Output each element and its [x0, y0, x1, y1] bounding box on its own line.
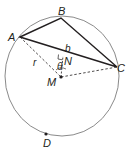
label-b: b: [65, 43, 71, 54]
point-D: [44, 132, 47, 135]
label-theta: θ: [57, 61, 63, 72]
label-B: B: [58, 5, 65, 17]
circle-triangle-diagram: A B C N M D b r θ: [0, 0, 126, 148]
point-M: [59, 75, 62, 78]
right-angle-mark: [58, 55, 63, 60]
label-r: r: [33, 57, 37, 68]
label-C: C: [117, 62, 125, 74]
radius-MC: [61, 67, 117, 77]
label-D: D: [43, 137, 51, 148]
label-M: M: [47, 76, 57, 88]
label-A: A: [7, 31, 15, 43]
label-N: N: [64, 55, 72, 67]
